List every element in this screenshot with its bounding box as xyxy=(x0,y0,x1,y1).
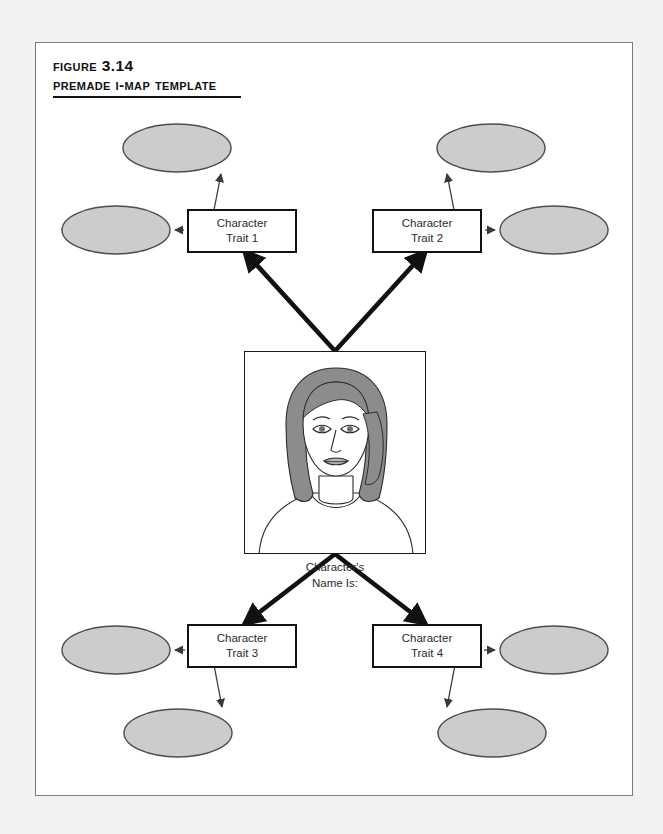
figure-card: Figure 3.14 Premade I-Map Template xyxy=(35,42,633,796)
portrait-neck xyxy=(319,476,353,504)
connector-trait3-to-oval-b xyxy=(214,665,222,707)
connector-center-to-trait2 xyxy=(335,251,426,351)
connector-center-to-trait1 xyxy=(244,251,335,351)
character-portrait-frame[interactable] xyxy=(244,351,426,554)
page-canvas: Figure 3.14 Premade I-Map Template xyxy=(0,0,663,834)
trait-box-1[interactable]: Character Trait 1 xyxy=(187,209,297,253)
trait-box-3-text: Character Trait 3 xyxy=(217,631,268,661)
oval-trait1-a[interactable] xyxy=(123,124,231,172)
trait-box-4[interactable]: Character Trait 4 xyxy=(372,624,482,668)
connector-trait4-to-oval-b xyxy=(447,665,455,707)
trait-box-3[interactable]: Character Trait 3 xyxy=(187,624,297,668)
portrait-pupil-left xyxy=(319,426,325,432)
oval-trait4-b[interactable] xyxy=(438,709,546,757)
oval-trait3-b[interactable] xyxy=(124,709,232,757)
caption-line-1: Character's xyxy=(306,561,364,573)
trait-box-2[interactable]: Character Trait 2 xyxy=(372,209,482,253)
oval-trait1-b[interactable] xyxy=(62,206,170,254)
oval-trait4-a[interactable] xyxy=(500,626,608,674)
oval-trait2-b[interactable] xyxy=(500,206,608,254)
oval-trait3-a[interactable] xyxy=(62,626,170,674)
trait-box-2-text: Character Trait 2 xyxy=(402,216,453,246)
character-portrait-icon xyxy=(245,352,426,554)
portrait-pupil-right xyxy=(347,426,353,432)
caption-line-2: Name Is: xyxy=(312,577,358,589)
trait-box-4-text: Character Trait 4 xyxy=(402,631,453,661)
trait-box-1-text: Character Trait 1 xyxy=(217,216,268,246)
character-name-caption: Character's Name Is: xyxy=(244,560,426,591)
oval-trait2-a[interactable] xyxy=(437,124,545,172)
